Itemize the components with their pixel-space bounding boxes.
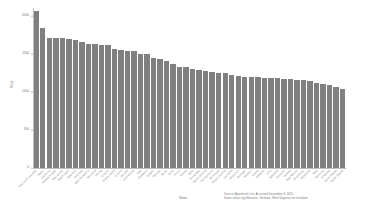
bar (236, 76, 241, 168)
source-footnote: Source: Apartment List, Accessed Decembe… (224, 193, 308, 200)
bar (47, 38, 52, 168)
bar (170, 64, 175, 168)
bar (333, 87, 338, 168)
bar (125, 51, 130, 168)
bar (262, 78, 267, 168)
bar (73, 40, 78, 168)
bar-series (33, 8, 346, 168)
bar (327, 85, 332, 168)
bar (151, 58, 156, 168)
bar (118, 50, 123, 168)
y-axis-tick-labels: 0500100015002000 (0, 8, 33, 168)
bar (307, 81, 312, 168)
bar (249, 77, 254, 168)
bar (86, 44, 91, 168)
x-axis-tick-label: District of Columbia (19, 170, 38, 189)
bar (183, 67, 188, 168)
y-axis-tick-label: 0 (27, 166, 29, 169)
bar (164, 61, 169, 168)
bar (216, 73, 221, 168)
bar (157, 59, 162, 168)
x-axis-title: State (0, 196, 366, 200)
bar (242, 77, 247, 168)
x-axis-tick-slot: South Dakota (339, 169, 346, 193)
bar (131, 51, 136, 168)
bar (275, 78, 280, 168)
plot-area (33, 8, 346, 168)
bar (288, 79, 293, 168)
bar (112, 49, 117, 168)
y-axis-tick-label: 1000 (22, 90, 29, 93)
bar (340, 89, 345, 168)
bar-chart-figure: Rent 0500100015002000 District of Columb… (0, 0, 366, 215)
bar (268, 78, 273, 168)
bar (34, 11, 39, 168)
bar (105, 45, 110, 168)
bar (301, 80, 306, 168)
bar (40, 28, 45, 168)
y-axis-tick-label: 1500 (22, 52, 29, 55)
bar (281, 79, 286, 168)
bar (229, 75, 234, 168)
bar (60, 38, 65, 168)
y-axis-tick-label: 500 (24, 128, 29, 131)
x-axis-tick-labels: District of ColumbiaHawaiiCaliforniaMass… (33, 169, 346, 193)
bar (294, 80, 299, 168)
bar (99, 45, 104, 168)
bar (138, 54, 143, 168)
bar (66, 39, 71, 168)
bar (190, 69, 195, 168)
footnote-line-2: Some states (eg Montana, Vermont, West V… (224, 197, 308, 201)
y-axis-tick-label: 2000 (22, 14, 29, 17)
bar (92, 44, 97, 168)
bar (144, 54, 149, 168)
bar (196, 70, 201, 168)
bar (255, 77, 260, 168)
bar (314, 83, 319, 168)
bar (320, 84, 325, 168)
bar (53, 38, 58, 168)
bar (209, 72, 214, 168)
bar (177, 67, 182, 168)
bar (223, 73, 228, 168)
bar (79, 42, 84, 168)
bar (203, 71, 208, 168)
